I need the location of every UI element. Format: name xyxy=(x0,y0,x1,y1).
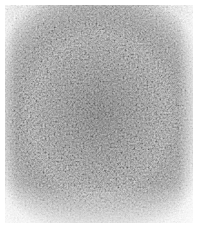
image-canvas xyxy=(0,0,198,230)
grayscale-texture-region xyxy=(5,5,193,223)
noise-texture xyxy=(5,5,193,223)
